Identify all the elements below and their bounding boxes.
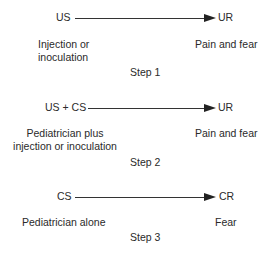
step-3-stimulus-desc: Pediatrician alone [22,216,105,229]
step-2-stimulus: US + CS [45,101,86,114]
step-2-arrow-line [88,108,207,109]
step-1-stimulus: US [56,11,71,24]
step-3-arrow-line [75,197,207,198]
step-2-response-desc: Pain and fear [195,127,257,140]
step-2-label: Step 2 [130,156,160,169]
arrow-head-icon [204,193,216,201]
step-3-label: Step 3 [130,231,160,244]
step-1-stimulus-desc-line-1: Injection or [38,38,89,51]
arrow-head-icon [204,14,216,22]
step-3-response: CR [219,190,234,203]
step-1-response-desc: Pain and fear [195,38,257,51]
step-2-stimulus-desc-line-1: Pediatrician plus [5,127,125,140]
step-3-response-desc: Fear [215,216,237,229]
step-2-response: UR [218,101,233,114]
step-1-stimulus-desc-line-2: inoculation [38,51,88,64]
step-3-stimulus: CS [57,190,72,203]
step-1-label: Step 1 [130,66,160,79]
step-1-arrow-line [75,18,207,19]
step-1-response: UR [218,11,233,24]
arrow-head-icon [204,104,216,112]
step-2-stimulus-desc-line-2: injection or inoculation [5,140,125,153]
